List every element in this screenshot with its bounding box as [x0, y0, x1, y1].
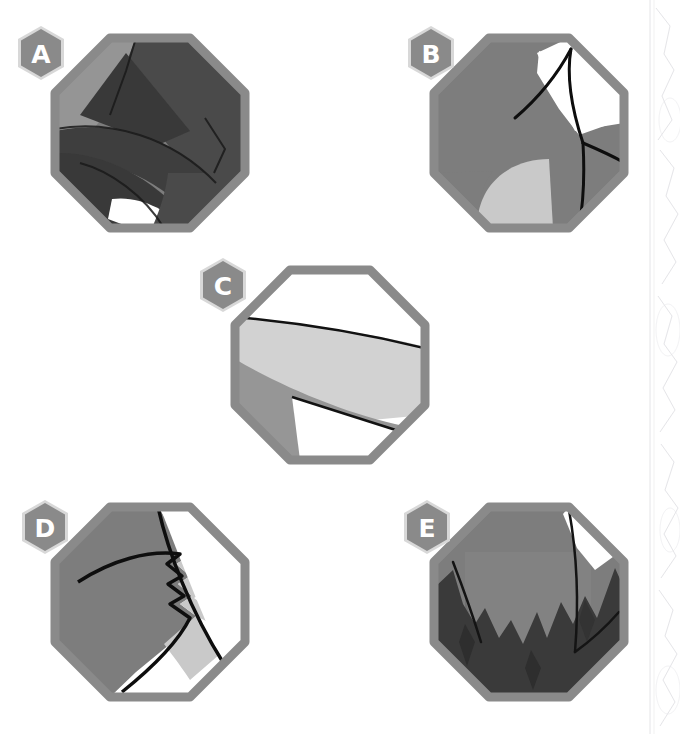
tile-c-badge-letter: C — [214, 272, 232, 301]
worksheet-sheet: A — [0, 0, 680, 734]
tile-d[interactable] — [40, 492, 260, 712]
paper-edge-texture — [644, 0, 680, 734]
tile-d-artwork — [40, 492, 260, 712]
tile-c-badge: C — [196, 256, 250, 314]
tile-b-badge-letter: B — [421, 40, 440, 69]
tile-a[interactable] — [40, 23, 260, 243]
tile-e-badge: E — [400, 498, 454, 556]
tile-c-artwork — [220, 255, 440, 475]
tile-c[interactable] — [220, 255, 440, 475]
tile-d-badge-letter: D — [35, 514, 56, 543]
tile-a-badge: A — [14, 24, 68, 82]
tile-a-artwork — [40, 23, 260, 243]
tile-d-badge: D — [18, 498, 72, 556]
tile-a-badge-letter: A — [31, 40, 51, 69]
tile-e-badge-letter: E — [418, 514, 435, 543]
tile-b-badge: B — [404, 24, 458, 82]
